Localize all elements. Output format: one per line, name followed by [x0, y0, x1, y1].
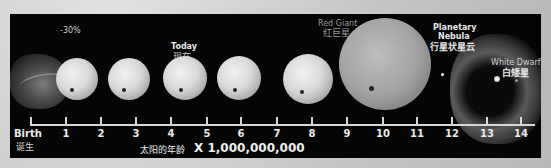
tick-8: [311, 117, 313, 125]
nebula-label-en-2: Nebula: [438, 32, 470, 42]
tick-label-5: 5: [204, 128, 211, 139]
tick-3: [135, 117, 137, 125]
white-dwarf-label-cn: 白矮星: [502, 68, 529, 78]
sun-sphere-2: [108, 58, 150, 100]
tick-label-10: 10: [376, 128, 390, 139]
tick-label-9: 9: [344, 128, 351, 139]
tick-label-11: 11: [410, 128, 424, 139]
white-dwarf-dot: [494, 76, 500, 82]
tick-label-13: 13: [480, 128, 494, 139]
tick-label-14: 14: [514, 128, 528, 139]
tick-label-7: 7: [274, 128, 281, 139]
white-dwarf-dot-faint: [515, 79, 518, 82]
today-label-en: Today: [171, 42, 197, 52]
tick-label-12: 12: [445, 128, 459, 139]
white-dwarf-label-en: White Dwarf: [491, 58, 541, 68]
tick-7: [276, 117, 278, 125]
tick-13: [486, 117, 488, 125]
tick-label-4: 4: [168, 128, 175, 139]
tick-14: [520, 117, 522, 125]
timeline-axis: [30, 124, 535, 126]
tick-label-6: 6: [238, 128, 245, 139]
sun-lifecycle-diagram: -30% Today 现在 Red Giant 红巨星 Planetary Ne…: [10, 14, 541, 158]
tick-label-1: 1: [63, 128, 70, 139]
early-sun-annotation: -30%: [60, 26, 81, 36]
axis-title-cn: 太阳的年龄: [140, 143, 185, 156]
sun-sphere-today: [163, 56, 207, 100]
sun-sphere-5: [217, 56, 261, 100]
axis-multiplier: X 1,000,000,000: [194, 141, 305, 155]
tick-10: [382, 117, 384, 125]
sun-sphere-1: [56, 58, 98, 100]
tick-2: [100, 117, 102, 125]
axis-start-label-en: Birth: [14, 128, 42, 139]
tick-birth: [30, 117, 32, 125]
axis-start-label-cn: 诞生: [16, 140, 34, 153]
tick-11: [416, 117, 418, 125]
tick-label-2: 2: [98, 128, 105, 139]
sun-sphere-6: [283, 54, 333, 104]
tick-label-3: 3: [133, 128, 140, 139]
nebula-core: [441, 73, 444, 76]
tick-12: [451, 117, 453, 125]
nebula-label-cn: 行星状星云: [430, 42, 475, 52]
tick-4: [170, 117, 172, 125]
tick-6: [240, 117, 242, 125]
tick-label-8: 8: [309, 128, 316, 139]
tick-9: [346, 117, 348, 125]
red-giant-label-cn: 红巨星: [323, 28, 350, 38]
tick-1: [65, 117, 67, 125]
red-giant-sphere: [339, 18, 431, 110]
tick-5: [206, 117, 208, 125]
